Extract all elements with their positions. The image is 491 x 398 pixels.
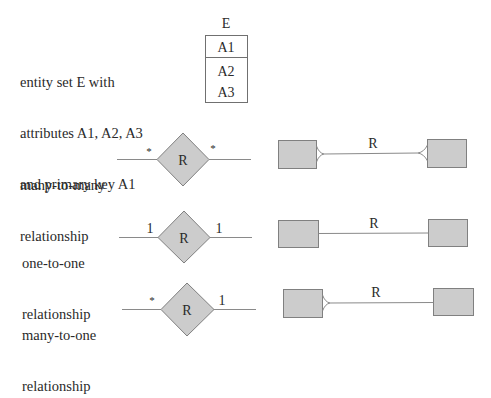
crowsfoot-relationship-many-to-many: R	[279, 136, 467, 169]
entity-box-right	[428, 140, 467, 168]
crowsfoot-right-icon	[418, 145, 428, 161]
entity-box-left	[279, 221, 319, 248]
entity-box-left	[284, 290, 323, 318]
relationship-label: R	[182, 303, 192, 318]
relationship-label: R	[179, 231, 189, 246]
left-cardinality: *	[146, 145, 152, 157]
left-cardinality: 1	[147, 221, 154, 236]
entity-name: E	[222, 16, 231, 31]
relationship-label: R	[178, 153, 188, 168]
attribute: A3	[217, 85, 234, 100]
entity-box-right	[434, 289, 474, 316]
entity-box-right	[429, 220, 468, 247]
right-cardinality: 1	[216, 221, 223, 236]
relationship-line	[324, 153, 418, 154]
chen-relationship-many-to-one: R * 1	[122, 283, 256, 336]
relationship-line	[319, 233, 429, 234]
attribute: A2	[217, 64, 234, 79]
crowsfoot-relationship-one-to-one: R	[279, 216, 468, 248]
crowsfoot-left-icon	[323, 295, 331, 311]
right-cardinality: 1	[219, 293, 226, 308]
left-cardinality: *	[149, 294, 155, 306]
crowsfoot-left-icon	[317, 146, 325, 162]
entity-box: E A1 A2 A3	[206, 16, 248, 103]
relationship-label: R	[371, 285, 381, 300]
chen-relationship-many-to-many: R * *	[117, 133, 251, 186]
primary-key-attribute: A1	[217, 40, 234, 55]
entity-box-left	[279, 141, 317, 169]
relationship-line	[330, 303, 434, 304]
relationship-label: R	[368, 136, 378, 151]
chen-relationship-one-to-one: R 1 1	[119, 211, 252, 263]
row-description-line: relationship	[22, 378, 96, 395]
relationship-label: R	[369, 216, 379, 231]
crowsfoot-relationship-many-to-one: R	[284, 285, 474, 318]
right-cardinality: *	[210, 142, 216, 154]
